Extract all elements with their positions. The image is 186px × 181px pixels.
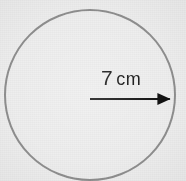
diagram-canvas: [0, 0, 186, 181]
radius-unit: cm: [116, 69, 141, 89]
circle-radius-figure: 7cm: [0, 0, 186, 181]
radius-value: 7: [101, 66, 113, 89]
circle-outline: [5, 10, 175, 180]
radius-measurement-label: 7cm: [101, 67, 141, 88]
